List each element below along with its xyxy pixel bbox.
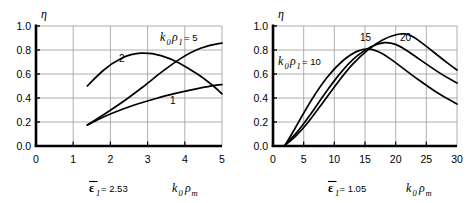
series-label-eq: = 10 — [302, 56, 321, 67]
chart-panel-right: 1.0 0.8 0.6 0.4 0.2 0.0 0 5 10 15 20 25 … — [236, 0, 472, 203]
x-axis-title-subm: m — [192, 188, 198, 198]
xtick-3: 3 — [145, 153, 151, 165]
right-ytick-labels: 1.0 0.8 0.6 0.4 0.2 0.0 — [253, 20, 268, 152]
ytick-1: 1.0 — [16, 20, 31, 32]
left-ytick-labels: 1.0 0.8 0.6 0.4 0.2 0.0 — [16, 20, 31, 152]
curve-1 — [87, 85, 222, 126]
xtick-1: 1 — [70, 153, 76, 165]
chart-panel-left: 1.0 0.8 0.6 0.4 0.2 0.0 0 1 2 3 4 5 η k … — [0, 0, 236, 203]
x-axis-title-sub0: 0 — [179, 188, 184, 198]
ytick-04: 0.4 — [16, 92, 31, 104]
series-label-sub0: 0 — [167, 37, 172, 47]
y-axis-title: η — [41, 7, 47, 21]
xtick-30: 30 — [451, 153, 463, 165]
x-axis-title-sub0: 0 — [413, 188, 418, 198]
series-label-k0rho1: k 0 ρ 1 = 10 — [278, 54, 321, 71]
caption-epsilon: ε — [89, 181, 94, 195]
ytick-00: 0.0 — [253, 140, 268, 152]
xtick-25: 25 — [420, 153, 432, 165]
ytick-00: 0.0 — [16, 140, 31, 152]
curve-label-15: 15 — [360, 32, 372, 43]
series-label-sub0: 0 — [285, 61, 290, 71]
right-xtick-labels: 0 5 10 15 20 25 30 — [270, 153, 463, 165]
xtick-10: 10 — [328, 153, 340, 165]
y-axis-title: η — [278, 7, 284, 21]
series-label-k: k — [160, 30, 166, 44]
x-axis-title-k: k — [406, 181, 412, 195]
ytick-1: 1.0 — [253, 20, 268, 32]
left-gridlines — [36, 26, 222, 146]
x-axis-title-rho: ρ — [184, 181, 191, 195]
left-curves — [87, 43, 222, 125]
curve-label-1: 1 — [170, 95, 176, 106]
ytick-04: 0.4 — [253, 92, 268, 104]
ytick-06: 0.6 — [16, 68, 31, 80]
x-axis-title-subm: m — [426, 188, 432, 198]
series-label-sub1: 1 — [297, 61, 301, 71]
xtick-2: 2 — [107, 153, 113, 165]
ytick-08: 0.8 — [253, 44, 268, 56]
x-axis-title-rho: ρ — [418, 181, 425, 195]
left-caption: ε 1 = 2.53 — [89, 181, 128, 198]
series-label-sub1: 1 — [179, 37, 183, 47]
ytick-02: 0.2 — [16, 116, 31, 128]
caption-value: = 1.05 — [340, 183, 367, 194]
curve-k0rho1-5 — [87, 43, 222, 125]
xtick-0: 0 — [33, 153, 39, 165]
x-axis-title: k 0 ρ m — [172, 181, 198, 198]
series-label-k0rho1: k 0 ρ 1 = 5 — [160, 30, 197, 47]
left-chart-svg: 1.0 0.8 0.6 0.4 0.2 0.0 0 1 2 3 4 5 η k … — [0, 0, 236, 203]
x-axis-title-k: k — [172, 181, 178, 195]
caption-epsilon-sub: 1 — [96, 188, 100, 198]
right-caption: ε 1 = 1.05 — [328, 181, 366, 198]
xtick-0: 0 — [270, 153, 276, 165]
right-curve-labels: 15 20 k 0 ρ 1 = 10 — [278, 32, 412, 71]
caption-value: = 2.53 — [101, 183, 128, 194]
xtick-4: 4 — [182, 153, 188, 165]
left-xtick-labels: 0 1 2 3 4 5 — [33, 153, 225, 165]
series-label-rho: ρ — [171, 30, 178, 44]
ytick-08: 0.8 — [16, 44, 31, 56]
ytick-02: 0.2 — [253, 116, 268, 128]
figure-root: 1.0 0.8 0.6 0.4 0.2 0.0 0 1 2 3 4 5 η k … — [0, 0, 472, 203]
xtick-20: 20 — [390, 153, 402, 165]
xtick-15: 15 — [359, 153, 371, 165]
ytick-06: 0.6 — [253, 68, 268, 80]
xtick-5: 5 — [301, 153, 307, 165]
series-label-eq: = 5 — [184, 32, 197, 43]
x-axis-title: k 0 ρ m — [406, 181, 432, 198]
right-chart-svg: 1.0 0.8 0.6 0.4 0.2 0.0 0 5 10 15 20 25 … — [236, 0, 472, 203]
series-label-k: k — [278, 54, 284, 68]
xtick-5: 5 — [219, 153, 225, 165]
caption-epsilon: ε — [328, 181, 333, 195]
left-curve-labels: 2 1 k 0 ρ 1 = 5 — [119, 30, 197, 106]
series-label-rho: ρ — [289, 54, 296, 68]
curve-label-2: 2 — [119, 53, 125, 64]
curve-label-20: 20 — [400, 32, 412, 43]
